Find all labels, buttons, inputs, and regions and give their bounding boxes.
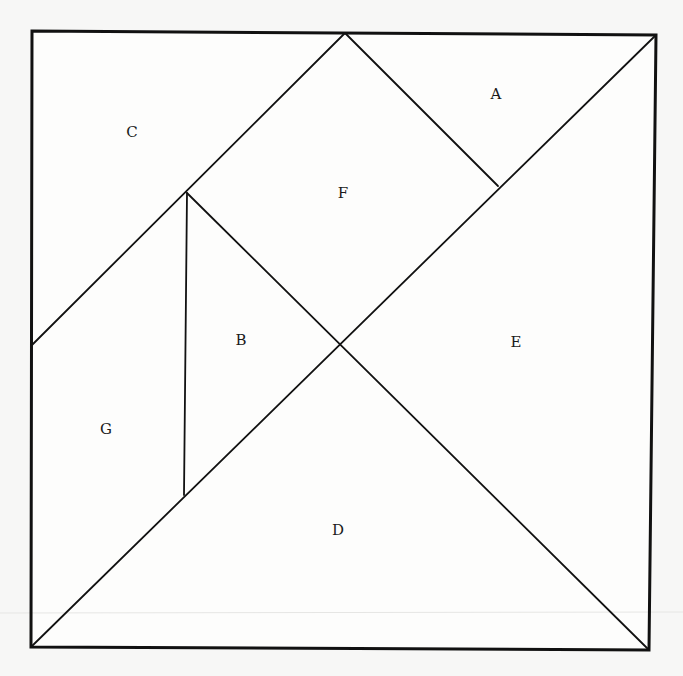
label-g: G: [100, 420, 112, 438]
label-a: A: [490, 85, 502, 103]
label-e: E: [511, 333, 522, 351]
tangram-diagram: A B C D E F G: [0, 0, 683, 676]
label-f: F: [338, 184, 348, 202]
label-c: C: [126, 123, 137, 141]
label-d: D: [332, 521, 344, 539]
label-b: B: [235, 331, 246, 349]
